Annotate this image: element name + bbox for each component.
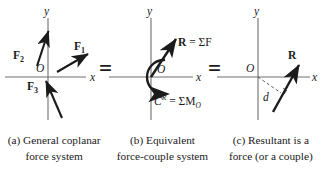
caption-c: (c) Resultant is a force (or a couple) (217, 128, 325, 169)
y-axis-label: y (44, 6, 49, 18)
force-label-f2-sub: 2 (20, 55, 24, 64)
panel-c-diagram (215, 0, 325, 128)
resultant-force-equation: R = ΣF (178, 37, 212, 49)
panel-equivalent-force-couple-system: y x O R = ΣF CR = ΣMO (107, 0, 217, 128)
resultant-equation-text: = ΣF (186, 36, 211, 48)
couple-equation-text: = ΣM (166, 95, 195, 107)
x-axis-label: x (196, 72, 201, 84)
distance-label-d: d (263, 92, 269, 104)
force-label-f1-sub: 1 (81, 46, 85, 55)
panel-general-coplanar-force-system: y x O F2 F1 F3 (0, 0, 110, 128)
force-label-f3-sub: 3 (34, 86, 38, 95)
y-axis-label: y (254, 6, 259, 18)
force-vector-f1 (57, 54, 88, 72)
resultant-vector-r (273, 65, 299, 112)
caption-a: (a) General coplanar force system (0, 128, 108, 169)
caption-b-line2: force-couple system (108, 148, 216, 164)
force-label-f3: F3 (27, 81, 38, 95)
origin-label: O (246, 63, 254, 75)
couple-subscript-o: O (195, 101, 200, 110)
figure-captions: (a) General coplanar force system (b) Eq… (0, 128, 325, 169)
caption-c-line2: force (or a couple) (217, 148, 325, 164)
force-label-f1-text: F (74, 40, 81, 52)
caption-b: (b) Equivalent force-couple system (108, 128, 216, 169)
couple-symbol-c: C (154, 95, 162, 107)
x-axis-label: x (90, 72, 95, 84)
figure-coplanar-force-system: y x O F2 F1 F3 = y x (0, 0, 325, 169)
force-vector-f2 (37, 31, 49, 66)
y-axis-label: y (147, 6, 152, 18)
distance-line-d (258, 77, 281, 93)
force-label-f3-text: F (27, 80, 34, 92)
origin-label: O (36, 63, 44, 75)
caption-a-line2: force system (0, 148, 108, 164)
force-label-f1: F1 (74, 41, 85, 55)
origin-label: O (157, 64, 165, 76)
x-axis-label: x (312, 72, 317, 84)
force-label-f2: F2 (13, 50, 24, 64)
resultant-label-r: R (288, 50, 296, 62)
force-label-f2-text: F (13, 49, 20, 61)
panel-resultant-force: y x O R d (215, 0, 325, 128)
couple-moment-equation: CR = ΣMO (154, 94, 201, 110)
caption-b-line1: (b) Equivalent (130, 134, 195, 146)
caption-a-line1: (a) General coplanar (8, 134, 101, 146)
caption-c-line1: (c) Resultant is a (233, 134, 309, 146)
